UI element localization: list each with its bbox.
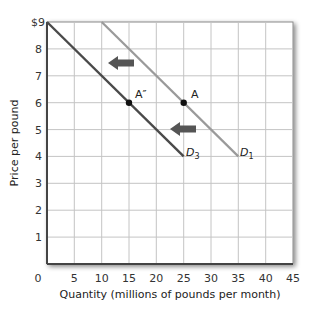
- demand-shift-chart: 1 2 3 4 5 6 7 8 $9 0 5 10 15 20 25 30 35…: [0, 0, 312, 314]
- x-tick: 40: [259, 272, 273, 285]
- x-tick: 20: [149, 272, 163, 285]
- x-tick: 15: [122, 272, 136, 285]
- x-tick: 35: [231, 272, 245, 285]
- x-tick: 25: [177, 272, 191, 285]
- y-tick: 8: [35, 43, 42, 56]
- x-tick-labels: 0 5 10 15 20 25 30 35 40 45: [35, 272, 301, 285]
- y-tick: 6: [35, 97, 42, 110]
- y-tick: 7: [35, 70, 42, 83]
- point-a-label: A: [191, 88, 199, 101]
- y-tick: 3: [35, 177, 42, 190]
- x-tick: 45: [286, 272, 300, 285]
- x-tick: 30: [204, 272, 218, 285]
- point-a-double-prime-label: A″: [135, 88, 147, 101]
- y-tick: 1: [35, 231, 42, 244]
- x-tick: 0: [35, 272, 42, 285]
- x-tick: 10: [95, 272, 109, 285]
- point-a: [181, 100, 187, 106]
- point-a-double-prime: [126, 100, 132, 106]
- x-tick: 5: [71, 272, 78, 285]
- y-tick: 5: [35, 124, 42, 137]
- y-tick: 2: [35, 204, 42, 217]
- y-axis-label: Price per pound: [8, 100, 21, 187]
- y-tick: $9: [31, 16, 45, 29]
- x-axis-label: Quantity (millions of pounds per month): [60, 288, 281, 301]
- y-tick-labels: 1 2 3 4 5 6 7 8 $9: [31, 16, 45, 244]
- y-tick: 4: [35, 150, 42, 163]
